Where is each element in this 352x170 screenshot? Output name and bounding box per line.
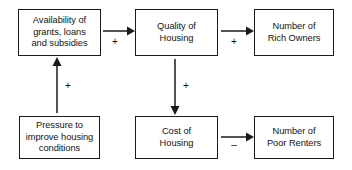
node-cost-of-housing[interactable]: Cost of Housing (135, 116, 218, 159)
node-pressure-to-improve-housing-label: Pressure to improve housing conditions (26, 120, 93, 155)
node-quality-of-housing-label: Quality of Housing (157, 21, 196, 44)
node-number-of-rich-owners-label: Number of Rich Owners (268, 21, 321, 44)
node-pressure-to-improve-housing[interactable]: Pressure to improve housing conditions (19, 116, 100, 159)
node-availability-of-grants[interactable]: Availability of grants, loans and subsid… (18, 9, 101, 56)
causal-loop-diagram: Availability of grants, loans and subsid… (0, 0, 352, 170)
node-number-of-poor-renters-label: Number of Poor Renters (267, 126, 321, 149)
edge-sign-availability-to-quality: + (110, 37, 120, 47)
edge-quality-to-cost (171, 59, 180, 115)
edge-availability-to-quality (103, 27, 135, 36)
edge-sign-quality-to-rich-owners: + (229, 37, 239, 47)
node-cost-of-housing-label: Cost of Housing (160, 126, 194, 149)
node-availability-of-grants-label: Availability of grants, loans and subsid… (31, 15, 87, 50)
edge-sign-quality-to-cost: + (181, 81, 191, 91)
node-number-of-rich-owners[interactable]: Number of Rich Owners (254, 9, 334, 56)
edge-sign-cost-to-poor-renters: – (229, 140, 239, 150)
node-number-of-poor-renters[interactable]: Number of Poor Renters (254, 116, 334, 159)
edge-pressure-to-availability (53, 57, 62, 113)
node-quality-of-housing[interactable]: Quality of Housing (135, 9, 218, 56)
edge-quality-to-rich-owners (221, 27, 254, 36)
edge-sign-pressure-to-availability: + (63, 81, 73, 91)
